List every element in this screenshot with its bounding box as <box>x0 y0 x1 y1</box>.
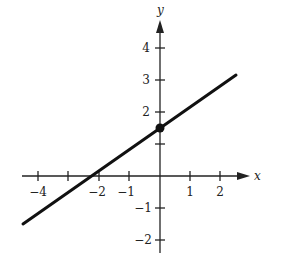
x-tick-label: −2 <box>88 185 106 199</box>
x-axis-arrow-icon <box>237 172 250 180</box>
y-axis-arrow-icon <box>156 20 164 33</box>
x-tick-label: 1 <box>186 185 194 199</box>
data-line <box>23 75 236 224</box>
x-tick-label: −1 <box>117 185 135 199</box>
x-tick-label: −4 <box>29 185 47 199</box>
x-axis-label: x <box>254 169 261 183</box>
y-tick-label: −2 <box>134 233 152 247</box>
y-intercept-point <box>156 124 165 133</box>
coordinate-plane: −4 −2 −1 1 2 4 3 2 −1 −2 x y <box>0 0 281 276</box>
y-tick-label: 2 <box>142 105 150 119</box>
x-tick-label: 2 <box>216 185 224 199</box>
y-tick-label: 3 <box>142 73 150 87</box>
y-tick-label: −1 <box>134 201 152 215</box>
y-tick-label: 4 <box>142 41 150 55</box>
y-axis-label: y <box>156 3 164 17</box>
